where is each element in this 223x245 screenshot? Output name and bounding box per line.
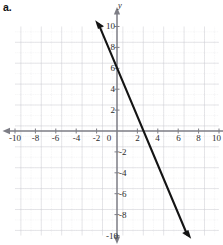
y-tick-label--10: -10 [96, 231, 118, 241]
y-tick-label-6: 6 [99, 63, 115, 73]
y-tick-label-8: 8 [99, 42, 115, 52]
x-tick-label-10: 10 [210, 133, 223, 143]
y-tick-label--8: -8 [119, 210, 137, 220]
y-tick-label-4: 4 [99, 84, 115, 94]
coordinate-plane [0, 0, 223, 245]
y-axis-label: y [118, 0, 122, 10]
x-tick-label--4: -4 [68, 133, 85, 143]
x-tick-label--6: -6 [47, 133, 64, 143]
x-tick-label--10: -10 [5, 133, 25, 143]
x-tick-label--8: -8 [27, 133, 44, 143]
y-tick-label-2: 2 [99, 105, 115, 115]
x-tick-label-6: 6 [172, 133, 185, 143]
y-tick-label--2: -2 [119, 147, 137, 157]
x-tick-label-8: 8 [192, 133, 205, 143]
y-tick-label-10: 10 [97, 21, 115, 31]
y-tick-label--6: -6 [119, 189, 137, 199]
x-tick-label-0: 0 [103, 133, 115, 143]
graph-figure: a. [0, 0, 223, 245]
x-tick-label-4: 4 [151, 133, 164, 143]
y-tick-label--4: -4 [119, 168, 137, 178]
x-tick-label-2: 2 [131, 133, 144, 143]
